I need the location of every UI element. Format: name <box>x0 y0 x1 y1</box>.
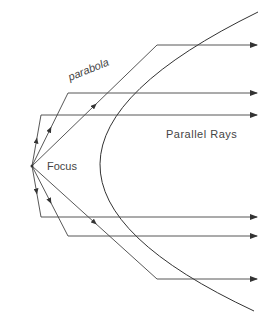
parallel-rays-label: Parallel Rays <box>166 128 237 140</box>
parabola-diagram: parabola Parallel Rays Focus <box>0 0 269 322</box>
focus-point <box>31 165 34 168</box>
parabola-curve <box>100 12 258 311</box>
parabola-label: parabola <box>65 56 110 84</box>
focus-label: Focus <box>47 160 77 172</box>
